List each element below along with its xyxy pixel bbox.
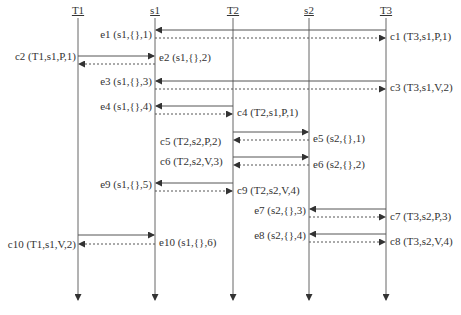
sequence-diagram: T1 s1 T2 s2 T3 e1 (s1,{},1) c1 (T3,s1,P,…	[0, 0, 461, 315]
label-c9: c9 (T2,s2,V,4)	[237, 184, 300, 196]
diagram-canvas	[0, 0, 461, 315]
label-c5: c5 (T2,s2,P,2)	[160, 135, 221, 147]
label-e10: e10 (s1,{},6)	[159, 236, 216, 248]
lifeline-header-s2: s2	[304, 4, 314, 16]
label-e5: e5 (s2,{},1)	[313, 132, 365, 144]
label-e1: e1 (s1,{},1)	[100, 28, 152, 40]
label-e9: e9 (s1,{},5)	[100, 178, 152, 190]
label-e3: e3 (s1,{},3)	[100, 75, 152, 87]
label-c1: c1 (T3,s1,P,1)	[390, 30, 451, 42]
lifeline-header-s1: s1	[150, 4, 160, 16]
label-e2: e2 (s1,{},2)	[159, 51, 211, 63]
label-e4: e4 (s1,{},4)	[100, 100, 152, 112]
label-e7: e7 (s2,{},3)	[254, 204, 306, 216]
label-c6: c6 (T2,s2,V,3)	[160, 155, 223, 167]
label-e6: e6 (s2,{},2)	[313, 158, 365, 170]
lifeline-header-T3: T3	[380, 4, 392, 16]
lifeline-header-T1: T1	[72, 4, 84, 16]
label-c7: c7 (T3,s2,P,3)	[390, 210, 451, 222]
label-c2: c2 (T1,s1,P,1)	[15, 50, 76, 62]
label-c8: c8 (T3,s2,V,4)	[390, 235, 453, 247]
label-c10: c10 (T1,s1,V,2)	[8, 238, 76, 250]
label-c3: c3 (T3,s1,V,2)	[390, 81, 453, 93]
label-c4: c4 (T2,s1,P,1)	[237, 106, 298, 118]
lifeline-header-T2: T2	[227, 4, 239, 16]
label-e8: e8 (s2,{},4)	[254, 229, 306, 241]
